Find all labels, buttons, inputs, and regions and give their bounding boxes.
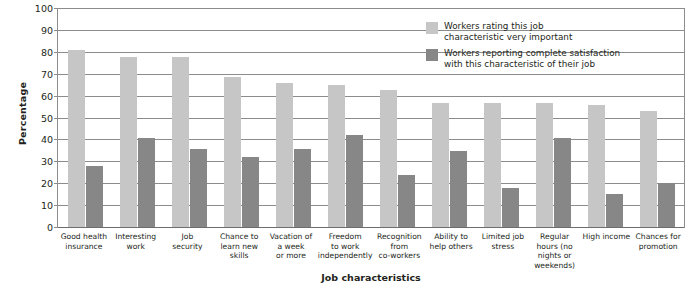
y-tick-label: 0 [47,222,53,233]
y-tick-label: 90 [41,24,53,35]
bar [172,57,189,227]
x-tick-label-line: High income [582,232,632,242]
x-tick-label: Chances forpromotion [632,232,684,270]
bar [346,135,363,227]
x-tick-label: Limited jobstress [477,232,529,270]
bar [276,83,293,227]
y-tick-label: 100 [35,3,53,14]
y-tick-label: 50 [41,112,53,123]
y-tick-mark [54,118,58,119]
legend-swatch-icon [426,49,438,61]
bar [588,105,605,227]
bar-group [319,9,371,227]
x-tick-label: Regularhours (nonights orweekends) [529,232,581,270]
y-tick-mark [54,161,58,162]
bar [554,138,571,227]
bar [484,103,501,227]
bar [86,166,103,227]
y-tick-label: 70 [41,68,53,79]
x-tick-label-line: Chance to [214,232,264,242]
bar-group [163,9,215,227]
y-tick-label: 40 [41,134,53,145]
y-axis-title: Percentage [17,44,28,184]
x-tick-label: Chance tolearn newskills [213,232,265,270]
bar-chart: Percentage 0102030405060708090100 Good h… [0,0,692,291]
x-tick-label: Recognitionfromco-workers [373,232,425,270]
x-tick-label-line: Regular [530,232,580,242]
x-tick-label-line: work [111,242,161,252]
x-tick-label-line: or more [266,251,316,261]
x-tick-label-line: help others [426,242,476,252]
x-tick-label: Jobsecurity [162,232,214,270]
x-tick-label-line: Limited job [478,232,528,242]
x-tick-label-line: hours (no [530,242,580,252]
x-tick-label-line: a week [266,242,316,252]
x-tick-label-line: Chances for [633,232,683,242]
legend-label-line: Workers reporting complete satisfaction [444,48,620,59]
bar [138,138,155,227]
x-tick-label: Good healthinsurance [58,232,110,270]
x-axis-line [58,227,684,228]
bar [606,194,623,227]
x-tick-label-line: Freedom [318,232,373,242]
x-tick-label-line: security [163,242,213,252]
x-tick-label-line: Vacation of [266,232,316,242]
x-tick-label-line: Good health [59,232,109,242]
x-tick-label-line: Job [163,232,213,242]
x-axis-title: Job characteristics [57,272,685,283]
legend-swatch-icon [426,22,438,34]
bar [450,151,467,227]
bar-group [215,9,267,227]
y-tick-label: 80 [41,46,53,57]
x-tick-label: Ability tohelp others [425,232,477,270]
legend-item-1: Workers reporting complete satisfaction … [426,48,678,69]
legend-item-0: Workers rating this job characteristic v… [426,21,678,42]
y-tick-mark [54,8,58,9]
legend-label-0: Workers rating this job characteristic v… [444,21,572,42]
x-tick-label-line: Interesting [111,232,161,242]
y-tick-label: 30 [41,156,53,167]
bar [224,77,241,227]
y-tick-label: 10 [41,200,53,211]
x-tick-label-line: to work [318,242,373,252]
bar [502,188,519,227]
x-tick-label-line: Ability to [426,232,476,242]
legend-label-1: Workers reporting complete satisfaction … [444,48,620,69]
x-tick-label-line: stress [478,242,528,252]
y-tick-mark [54,52,58,53]
y-tick-label: 20 [41,178,53,189]
y-tick-mark [54,30,58,31]
x-tick-label-line: learn new [214,242,264,252]
x-tick-label-line: promotion [633,242,683,252]
x-axis-tick-labels: Good healthinsuranceInterestingworkJobse… [58,232,684,270]
x-tick-label-line: from [374,242,424,252]
legend-label-line: with this characteristic of their job [444,59,620,70]
x-tick-label-line: independently [318,251,373,261]
bar [190,149,207,227]
bar [658,183,675,227]
x-tick-label-line: co-workers [374,251,424,261]
x-tick-label: Vacation ofa weekor more [265,232,317,270]
x-tick-label-line: nights or [530,251,580,261]
legend-label-line: characteristic very important [444,32,572,43]
bar [120,57,137,227]
y-tick-mark [54,139,58,140]
bar [328,85,345,227]
x-tick-label-line: skills [214,251,264,261]
x-tick-label-line: insurance [59,242,109,252]
bar [380,90,397,227]
legend-label-line: Workers rating this job [444,21,572,32]
bar [398,175,415,227]
bar [68,50,85,227]
x-tick-label: Interestingwork [110,232,162,270]
y-tick-mark [54,205,58,206]
bar [242,157,259,227]
y-tick-mark [54,96,58,97]
x-tick-label-line: Recognition [374,232,424,242]
bar [640,111,657,227]
x-tick-label-line: weekends) [530,261,580,271]
legend: Workers rating this job characteristic v… [426,21,678,75]
bar-group [59,9,111,227]
y-tick-mark [54,183,58,184]
bar-group [371,9,423,227]
